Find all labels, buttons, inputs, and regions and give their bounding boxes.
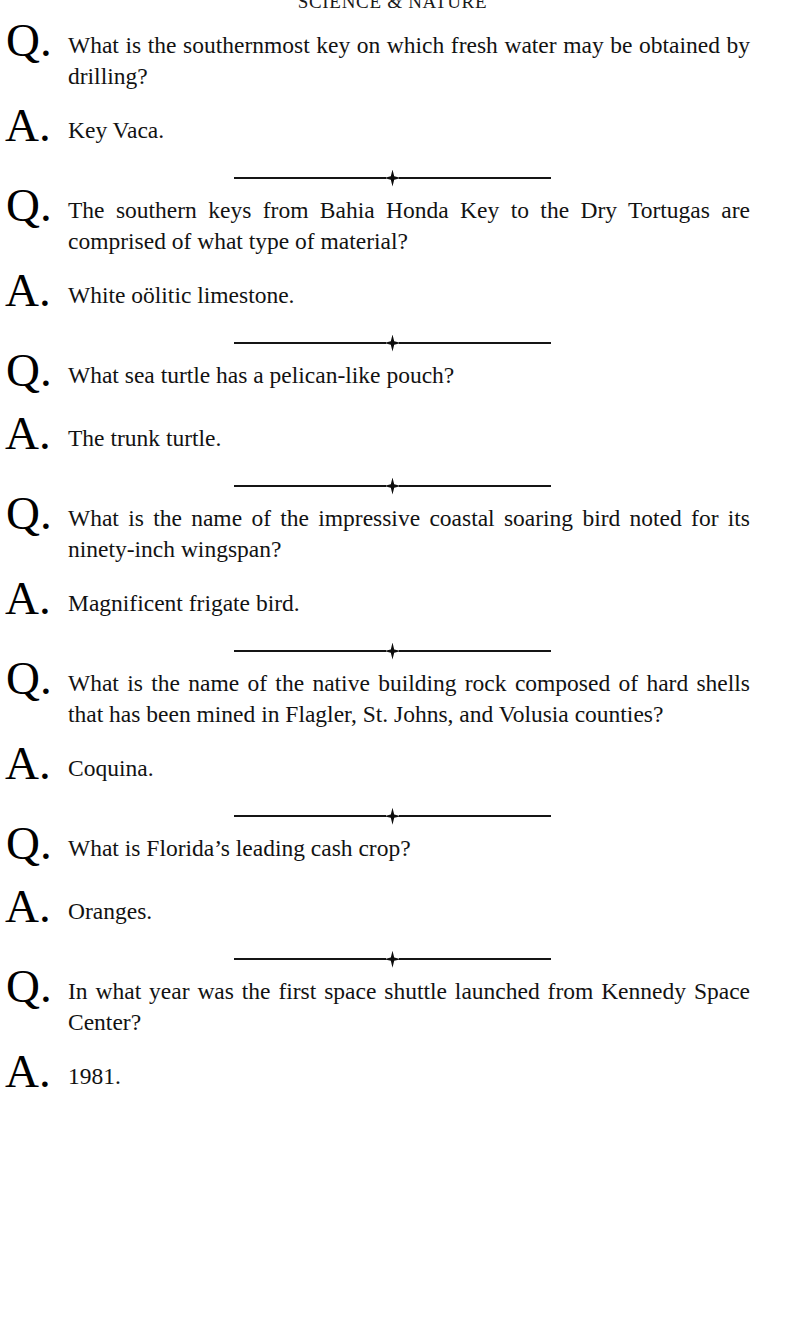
divider-rule-right [399, 815, 551, 817]
spacer [0, 320, 785, 328]
four-point-star-icon [384, 951, 401, 968]
spacer [0, 879, 785, 896]
answer-text: Key Vaca. [68, 115, 750, 146]
answer-text: White oölitic limestone. [68, 280, 750, 311]
answer-marker: A. [5, 740, 51, 787]
answer-marker: A. [5, 267, 51, 314]
divider-rule-left [234, 342, 386, 344]
section-divider-ornament [0, 328, 785, 358]
answer-text: Magnificent frigate bird. [68, 588, 750, 619]
answer-marker: A. [5, 1048, 51, 1095]
answer-row: A.1981. [0, 1061, 785, 1101]
answer-row: A.Coquina. [0, 753, 785, 793]
spacer [0, 98, 785, 115]
answer-text: The trunk turtle. [68, 423, 750, 454]
question-row: Q.In what year was the first space shutt… [0, 976, 785, 1038]
answer-marker: A. [5, 410, 51, 457]
question-row: Q.What sea turtle has a pelican-like pou… [0, 360, 785, 400]
divider-rule-right [399, 958, 551, 960]
spacer [0, 736, 785, 753]
spacer [0, 571, 785, 588]
document-page: SCIENCE & NATURE Q.What is the southernm… [0, 0, 785, 1343]
answer-row: A.The trunk turtle. [0, 423, 785, 463]
answer-row: A.White oölitic limestone. [0, 280, 785, 320]
qa-list: Q.What is the southernmost key on which … [0, 30, 785, 1101]
spacer [0, 1044, 785, 1061]
spacer [0, 155, 785, 163]
section-divider-ornament [0, 636, 785, 666]
four-point-star-icon [384, 478, 401, 495]
qa-block: Q.The southern keys from Bahia Honda Key… [0, 195, 785, 320]
question-marker: Q. [6, 963, 52, 1010]
spacer [0, 463, 785, 471]
question-text: What is the southernmost key on which fr… [68, 30, 750, 92]
divider-rule-right [399, 650, 551, 652]
qa-block: Q.What sea turtle has a pelican-like pou… [0, 360, 785, 463]
divider-rule-right [399, 342, 551, 344]
question-marker: Q. [6, 490, 52, 537]
answer-text: Coquina. [68, 753, 750, 784]
divider-rule-left [234, 485, 386, 487]
qa-block: Q.What is the name of the impressive coa… [0, 503, 785, 628]
question-marker: Q. [6, 820, 52, 867]
question-marker: Q. [6, 655, 52, 702]
answer-row: A.Oranges. [0, 896, 785, 936]
qa-block: Q.What is the name of the native buildin… [0, 668, 785, 793]
section-divider-ornament [0, 471, 785, 501]
spacer [0, 628, 785, 636]
section-divider-ornament [0, 163, 785, 193]
question-marker: Q. [6, 17, 52, 64]
question-text: What is the name of the impressive coast… [68, 503, 750, 565]
question-text: The southern keys from Bahia Honda Key t… [68, 195, 750, 257]
question-text: In what year was the first space shuttle… [68, 976, 750, 1038]
four-point-star-icon [384, 808, 401, 825]
qa-block: Q.What is the southernmost key on which … [0, 30, 785, 155]
question-row: Q.What is the southernmost key on which … [0, 30, 785, 92]
question-marker: Q. [6, 347, 52, 394]
answer-row: A.Magnificent frigate bird. [0, 588, 785, 628]
divider-rule-left [234, 177, 386, 179]
divider-rule-left [234, 958, 386, 960]
section-divider-ornament [0, 801, 785, 831]
question-row: Q.What is the name of the native buildin… [0, 668, 785, 730]
answer-text: Oranges. [68, 896, 750, 927]
running-head: SCIENCE & NATURE [0, 0, 785, 13]
qa-block: Q.In what year was the first space shutt… [0, 976, 785, 1101]
section-divider-ornament [0, 944, 785, 974]
question-text: What sea turtle has a pelican-like pouch… [68, 360, 750, 391]
answer-marker: A. [5, 883, 51, 930]
question-marker: Q. [6, 182, 52, 229]
answer-text: 1981. [68, 1061, 750, 1092]
question-row: Q.What is the name of the impressive coa… [0, 503, 785, 565]
spacer [0, 406, 785, 423]
divider-rule-left [234, 815, 386, 817]
question-row: Q.The southern keys from Bahia Honda Key… [0, 195, 785, 257]
spacer [0, 263, 785, 280]
qa-block: Q.What is Florida’s leading cash crop?A.… [0, 833, 785, 936]
four-point-star-icon [384, 170, 401, 187]
spacer [0, 793, 785, 801]
four-point-star-icon [384, 335, 401, 352]
spacer [0, 936, 785, 944]
divider-rule-right [399, 177, 551, 179]
question-row: Q.What is Florida’s leading cash crop? [0, 833, 785, 873]
question-text: What is Florida’s leading cash crop? [68, 833, 750, 864]
question-text: What is the name of the native building … [68, 668, 750, 730]
four-point-star-icon [384, 643, 401, 660]
divider-rule-left [234, 650, 386, 652]
divider-rule-right [399, 485, 551, 487]
answer-marker: A. [5, 102, 51, 149]
answer-row: A.Key Vaca. [0, 115, 785, 155]
answer-marker: A. [5, 575, 51, 622]
